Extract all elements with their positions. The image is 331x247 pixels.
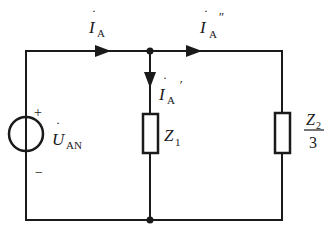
- svg-text:U: U: [52, 130, 66, 149]
- arrow-right-icon-ia: [95, 45, 111, 57]
- label-current-branch1: · I A ′: [158, 71, 182, 106]
- label-current-total: · I A: [88, 4, 105, 39]
- circuit-diagram: · I A · I A ″ · I A ′ + − · U AN Z 1 Z 2…: [0, 0, 331, 247]
- junction-bottom-dot: [147, 217, 154, 224]
- svg-text:′: ′: [179, 77, 182, 92]
- svg-text:Z: Z: [164, 126, 174, 145]
- svg-text:·: ·: [163, 71, 167, 85]
- svg-text:A: A: [209, 28, 217, 40]
- svg-text:·: ·: [204, 4, 208, 18]
- top-wire: [26, 51, 282, 116]
- impedance-z2-icon: [275, 113, 290, 153]
- svg-text:I: I: [158, 85, 166, 104]
- svg-text:3: 3: [309, 134, 317, 151]
- label-z2-fraction: Z 2 3: [304, 111, 324, 151]
- arrow-down-icon-ia1: [144, 72, 156, 88]
- svg-text:A: A: [97, 27, 105, 39]
- svg-text:Z: Z: [306, 111, 316, 128]
- svg-text:A: A: [167, 94, 175, 106]
- svg-text:2: 2: [316, 120, 321, 131]
- label-current-branch2: · I A ″: [199, 4, 224, 40]
- impedance-z1-icon: [143, 114, 158, 153]
- plus-sign: +: [34, 105, 42, 120]
- svg-text:I: I: [199, 18, 207, 37]
- svg-text:·: ·: [92, 4, 96, 18]
- svg-text:I: I: [88, 18, 96, 37]
- label-z1: Z 1: [164, 126, 181, 148]
- svg-text:AN: AN: [66, 139, 82, 151]
- svg-text:1: 1: [175, 136, 181, 148]
- arrow-right-icon-ia2: [186, 45, 202, 57]
- junction-top-dot: [147, 48, 154, 55]
- bottom-wire: [26, 152, 282, 220]
- label-source-voltage: · U AN: [52, 116, 82, 151]
- svg-text:″: ″: [218, 9, 224, 24]
- minus-sign: −: [35, 165, 43, 180]
- svg-text:·: ·: [56, 116, 60, 130]
